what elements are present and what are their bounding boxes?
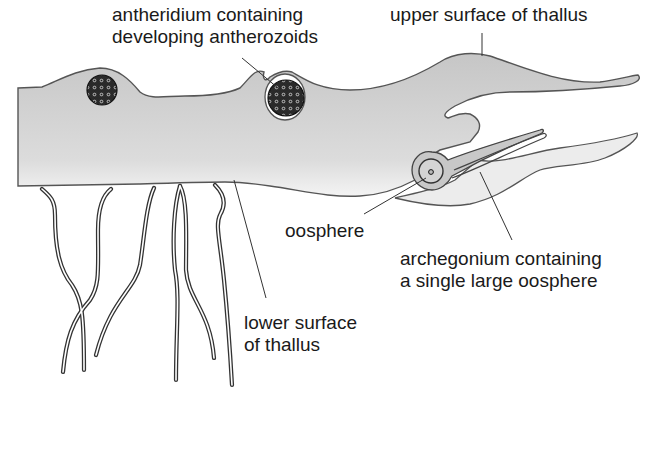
antheridium-in-chamber [265, 74, 305, 120]
label-oosphere: oosphere [285, 220, 364, 242]
label-archegonium-line2: a single large oosphere [400, 270, 602, 292]
label-lower-surface-line1: lower surface [244, 312, 357, 334]
label-antheridium-line1: antheridium containing [112, 4, 318, 26]
label-archegonium: archegonium containing a single large oo… [400, 248, 602, 292]
diagram-canvas: antheridium containing developing anther… [0, 0, 647, 449]
oosphere-nucleus [429, 170, 434, 175]
antheridium-embedded [87, 75, 117, 105]
label-archegonium-line1: archegonium containing [400, 248, 602, 270]
label-antheridium-line2: developing antherozoids [112, 26, 318, 48]
label-oosphere-line1: oosphere [285, 220, 364, 242]
thallus-body [18, 54, 639, 197]
label-lower-surface: lower surface of thallus [244, 312, 357, 356]
label-upper-surface-line1: upper surface of thallus [390, 4, 588, 26]
rhizoids [42, 185, 232, 385]
label-upper-surface: upper surface of thallus [390, 4, 588, 26]
label-lower-surface-line2: of thallus [244, 334, 357, 356]
leader-lower-surface [234, 180, 266, 298]
label-antheridium: antheridium containing developing anther… [112, 4, 318, 48]
